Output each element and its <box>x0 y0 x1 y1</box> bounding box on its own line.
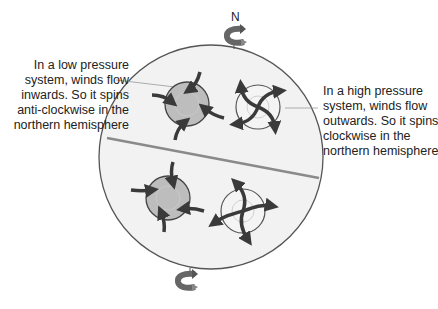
annotation-line: anti-clockwise in the <box>14 103 129 118</box>
north-spin-arrow-icon <box>227 24 247 49</box>
annotation-line: northern hemisphere <box>14 118 129 133</box>
annotation-line: northern hemisphere <box>323 144 438 159</box>
annotation-line: system, winds flow <box>323 99 438 114</box>
north-label: N <box>231 10 240 24</box>
high-pressure-annotation: In a high pressure system, winds flow ou… <box>323 84 438 159</box>
northern-high-pressure-system <box>236 85 280 129</box>
annotation-line: In a high pressure <box>323 84 438 99</box>
annotation-line: inwards. So it spins <box>14 88 129 103</box>
low-pressure-annotation: In a low pressure system, winds flow inw… <box>14 58 129 133</box>
annotation-line: outwards. So it spins <box>323 114 438 129</box>
south-spin-arrow-icon <box>178 268 198 291</box>
annotation-line: system, winds flow <box>14 73 129 88</box>
annotation-line: In a low pressure <box>14 58 129 73</box>
annotation-line: clockwise in the <box>323 129 438 144</box>
